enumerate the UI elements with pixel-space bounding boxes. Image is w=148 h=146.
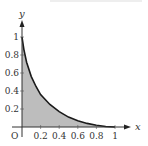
x-tick-label: 1 <box>112 131 118 141</box>
origin-label: O <box>11 131 18 141</box>
y-axis-label: y <box>18 8 25 19</box>
x-axis-label: x <box>135 121 141 132</box>
x-axis-arrow-icon <box>124 125 131 130</box>
x-tick-label: 0.6 <box>71 131 86 141</box>
chart-plot: 0.20.40.60.810.20.40.60.81 x y O <box>0 0 148 146</box>
y-tick-label: 0.8 <box>5 50 20 60</box>
y-axis-arrow-icon <box>20 20 25 27</box>
x-tick-label: 0.4 <box>52 131 67 141</box>
y-tick-label: 1 <box>13 32 19 42</box>
y-tick-label: 0.4 <box>5 86 20 96</box>
y-tick-label: 0.2 <box>5 104 19 114</box>
shaded-area <box>22 37 115 127</box>
y-tick-label: 0.6 <box>5 68 20 78</box>
x-tick-label: 0.8 <box>89 131 104 141</box>
x-tick-label: 0.2 <box>33 131 47 141</box>
